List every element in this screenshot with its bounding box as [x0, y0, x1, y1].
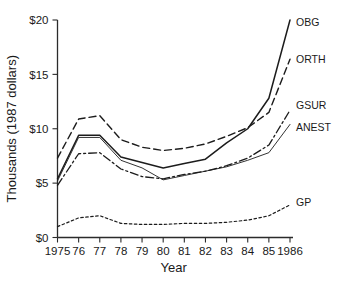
- x-axis-tick-label: 83: [220, 245, 233, 257]
- x-axis-tick-label: 81: [178, 245, 191, 257]
- x-axis-tick-label: 80: [157, 245, 170, 257]
- x-axis-tick-label: 82: [199, 245, 212, 257]
- series-label-gp: GP: [296, 196, 311, 208]
- y-axis-title: Thousands (1987 dollars): [4, 55, 19, 202]
- series-lines: [58, 20, 291, 227]
- x-axis-tick-label: 84: [241, 245, 254, 257]
- series-labels: OBGORTHGSURANESTGP: [296, 16, 332, 208]
- x-axis-tick-label: 1975: [45, 245, 71, 257]
- y-axis-tick-label: $10: [29, 123, 48, 135]
- series-line-gsur: [58, 110, 291, 185]
- x-axis-tick-label: 79: [136, 245, 149, 257]
- series-label-anest: ANEST: [296, 121, 332, 133]
- y-axis-tick-label: $0: [36, 232, 49, 244]
- line-chart: $0$5$10$15$20197576777879808182838485198…: [0, 0, 343, 284]
- x-axis-tick-label: 1986: [277, 245, 303, 257]
- series-label-obg: OBG: [296, 16, 319, 28]
- series-line-obg: [58, 20, 291, 179]
- x-axis-tick-label: 77: [93, 245, 106, 257]
- series-line-gp: [58, 205, 291, 227]
- chart-container: $0$5$10$15$20197576777879808182838485198…: [0, 0, 343, 284]
- axis-titles: YearThousands (1987 dollars): [4, 55, 188, 275]
- x-axis-tick-label: 76: [72, 245, 85, 257]
- y-axis-tick-label: $15: [29, 69, 48, 81]
- y-axis-tick-label: $20: [29, 14, 48, 26]
- x-axis-title: Year: [161, 260, 188, 275]
- series-label-orth: ORTH: [296, 53, 326, 65]
- series-line-orth: [58, 59, 291, 158]
- x-axis-tick-label: 85: [262, 245, 275, 257]
- y-axis-tick-label: $5: [36, 177, 49, 189]
- series-label-gsur: GSUR: [296, 99, 327, 111]
- x-axis-tick-label: 78: [115, 245, 128, 257]
